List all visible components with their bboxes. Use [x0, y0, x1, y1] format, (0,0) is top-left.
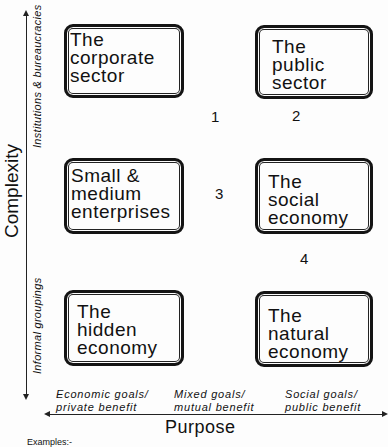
purpose-axis-title: Purpose	[165, 417, 236, 438]
box-hidden-economy: The hidden economy	[64, 290, 184, 366]
box-social-economy: The social economy	[255, 158, 373, 234]
box-label: The public sector	[272, 38, 327, 92]
box-label: The natural economy	[268, 307, 349, 361]
box-corporate-sector: The corporate sector	[64, 24, 184, 98]
box-public-sector: The public sector	[255, 25, 373, 99]
box-small-medium-enterprises: Small & medium enterprises	[64, 158, 184, 234]
purpose-label-social: Social goals/ public benefit	[285, 388, 361, 414]
complexity-axis-line	[26, 14, 27, 395]
number-4: 4	[300, 250, 308, 267]
box-label: The corporate sector	[70, 31, 155, 85]
box-natural-economy: The natural economy	[255, 291, 373, 367]
purpose-axis-line	[48, 414, 384, 415]
informal-groupings-label: Informal groupings	[31, 277, 43, 374]
purpose-label-economic: Economic goals/ private benefit	[56, 388, 149, 414]
number-3: 3	[215, 185, 223, 202]
institutions-label: Institutions & bureaucracies	[31, 4, 43, 148]
purpose-label-mixed: Mixed goals/ mutual benefit	[174, 388, 254, 414]
box-label: The social economy	[268, 173, 349, 227]
box-label: Small & medium enterprises	[71, 167, 171, 221]
complexity-axis-title: Complexity	[1, 144, 23, 238]
arrow-down-icon	[23, 394, 29, 400]
arrow-right-icon	[382, 411, 388, 417]
arrow-up-icon	[23, 10, 29, 16]
box-label: The hidden economy	[77, 303, 158, 357]
examples-label: Examples:-	[27, 437, 72, 447]
number-1: 1	[211, 108, 219, 125]
number-2: 2	[292, 107, 300, 124]
arrow-left-icon	[44, 411, 50, 417]
